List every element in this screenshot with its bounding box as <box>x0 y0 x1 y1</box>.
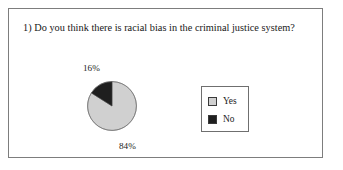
legend-label-yes: Yes <box>223 96 237 106</box>
figure-frame: 1) Do you think there is racial bias in … <box>8 8 323 158</box>
legend-swatch-yes-icon <box>208 97 217 106</box>
legend-item-no[interactable]: No <box>208 110 248 128</box>
legend-item-yes[interactable]: Yes <box>208 92 248 110</box>
legend-swatch-no-icon <box>208 115 217 124</box>
pie-chart: 16% 84% <box>69 61 159 151</box>
page-title: 1) Do you think there is racial bias in … <box>23 21 315 34</box>
pie-chart-svg <box>86 80 138 132</box>
chart-legend: Yes No <box>201 86 249 132</box>
legend-label-no: No <box>223 114 234 124</box>
pie-label-yes: 84% <box>119 141 136 152</box>
pie-label-no: 16% <box>83 63 100 74</box>
